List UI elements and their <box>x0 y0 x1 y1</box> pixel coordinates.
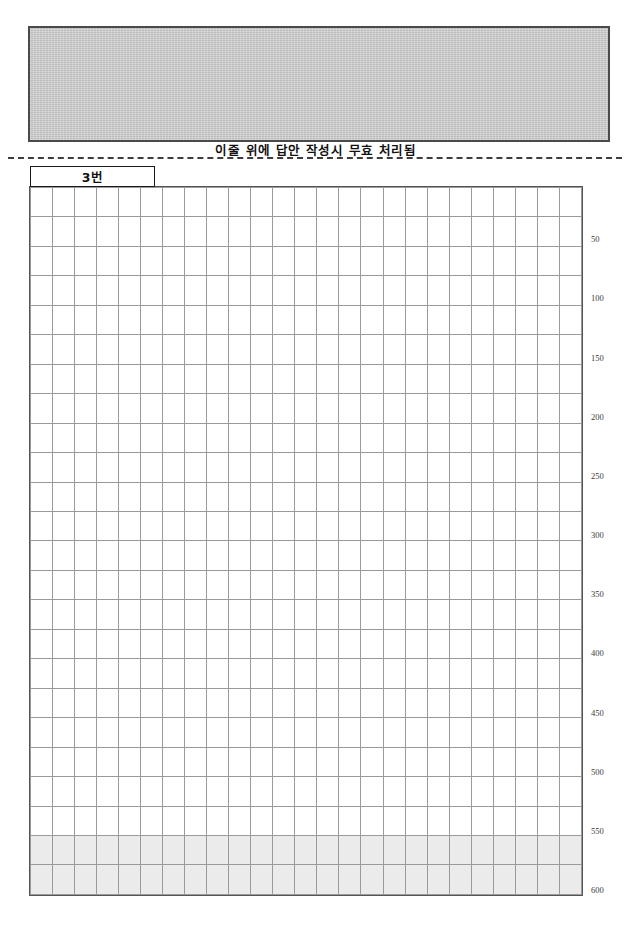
grid-cell[interactable] <box>537 835 559 864</box>
grid-cell[interactable] <box>141 747 163 776</box>
grid-cell[interactable] <box>405 511 427 540</box>
grid-cell[interactable] <box>493 305 515 334</box>
grid-cell[interactable] <box>273 364 295 393</box>
grid-cell[interactable] <box>53 865 75 895</box>
grid-cell[interactable] <box>97 423 119 452</box>
grid-cell[interactable] <box>427 453 449 482</box>
grid-cell[interactable] <box>273 570 295 599</box>
grid-cell[interactable] <box>273 335 295 364</box>
grid-cell[interactable] <box>185 570 207 599</box>
grid-cell[interactable] <box>53 747 75 776</box>
grid-cell[interactable] <box>75 217 97 246</box>
grid-cell[interactable] <box>75 276 97 305</box>
grid-cell[interactable] <box>97 806 119 835</box>
grid-cell[interactable] <box>427 629 449 658</box>
grid-cell[interactable] <box>449 453 471 482</box>
grid-cell[interactable] <box>339 718 361 747</box>
grid-cell[interactable] <box>119 246 141 275</box>
grid-cell[interactable] <box>515 335 537 364</box>
grid-cell[interactable] <box>537 394 559 423</box>
grid-cell[interactable] <box>493 423 515 452</box>
grid-cell[interactable] <box>207 659 229 688</box>
grid-cell[interactable] <box>515 423 537 452</box>
grid-cell[interactable] <box>383 865 405 895</box>
grid-cell[interactable] <box>31 394 53 423</box>
grid-cell[interactable] <box>207 246 229 275</box>
grid-cell[interactable] <box>185 188 207 217</box>
grid-cell[interactable] <box>493 570 515 599</box>
grid-cell[interactable] <box>537 659 559 688</box>
grid-cell[interactable] <box>53 629 75 658</box>
grid-cell[interactable] <box>141 305 163 334</box>
grid-cell[interactable] <box>295 511 317 540</box>
grid-cell[interactable] <box>515 777 537 806</box>
grid-cell[interactable] <box>515 217 537 246</box>
grid-cell[interactable] <box>31 276 53 305</box>
grid-cell[interactable] <box>317 482 339 511</box>
grid-cell[interactable] <box>383 600 405 629</box>
grid-row[interactable] <box>31 777 582 806</box>
grid-cell[interactable] <box>537 600 559 629</box>
grid-cell[interactable] <box>427 246 449 275</box>
grid-cell[interactable] <box>75 659 97 688</box>
grid-cell[interactable] <box>207 305 229 334</box>
grid-cell[interactable] <box>383 629 405 658</box>
grid-cell[interactable] <box>273 688 295 717</box>
grid-cell[interactable] <box>427 188 449 217</box>
grid-cell[interactable] <box>361 688 383 717</box>
grid-cell[interactable] <box>119 718 141 747</box>
grid-cell[interactable] <box>119 600 141 629</box>
grid-row[interactable] <box>31 305 582 334</box>
grid-cell[interactable] <box>75 688 97 717</box>
grid-cell[interactable] <box>273 188 295 217</box>
grid-cell[interactable] <box>141 217 163 246</box>
grid-cell[interactable] <box>119 276 141 305</box>
grid-cell[interactable] <box>493 688 515 717</box>
grid-cell[interactable] <box>31 246 53 275</box>
grid-cell[interactable] <box>295 688 317 717</box>
grid-cell[interactable] <box>229 570 251 599</box>
grid-cell[interactable] <box>207 364 229 393</box>
grid-cell[interactable] <box>317 806 339 835</box>
grid-cell[interactable] <box>317 335 339 364</box>
grid-cell[interactable] <box>97 865 119 895</box>
grid-cell[interactable] <box>339 629 361 658</box>
grid-cell[interactable] <box>119 305 141 334</box>
grid-cell[interactable] <box>251 423 273 452</box>
grid-cell[interactable] <box>97 246 119 275</box>
grid-cell[interactable] <box>405 335 427 364</box>
grid-cell[interactable] <box>53 541 75 570</box>
grid-cell[interactable] <box>559 276 581 305</box>
grid-cell[interactable] <box>251 541 273 570</box>
grid-cell[interactable] <box>185 246 207 275</box>
grid-cell[interactable] <box>97 600 119 629</box>
grid-cell[interactable] <box>361 541 383 570</box>
grid-cell[interactable] <box>207 217 229 246</box>
grid-cell[interactable] <box>229 335 251 364</box>
grid-cell[interactable] <box>427 718 449 747</box>
grid-cell[interactable] <box>405 482 427 511</box>
grid-cell[interactable] <box>427 423 449 452</box>
grid-cell[interactable] <box>53 423 75 452</box>
grid-cell[interactable] <box>471 747 493 776</box>
grid-cell[interactable] <box>119 482 141 511</box>
grid-cell[interactable] <box>141 335 163 364</box>
grid-cell[interactable] <box>339 659 361 688</box>
grid-cell[interactable] <box>559 835 581 864</box>
grid-cell[interactable] <box>31 305 53 334</box>
grid-cell[interactable] <box>97 629 119 658</box>
grid-cell[interactable] <box>141 570 163 599</box>
grid-cell[interactable] <box>75 777 97 806</box>
grid-cell[interactable] <box>515 246 537 275</box>
grid-cell[interactable] <box>515 747 537 776</box>
grid-cell[interactable] <box>537 777 559 806</box>
grid-cell[interactable] <box>471 718 493 747</box>
grid-cell[interactable] <box>559 659 581 688</box>
grid-cell[interactable] <box>559 394 581 423</box>
grid-cell[interactable] <box>295 659 317 688</box>
grid-cell[interactable] <box>273 718 295 747</box>
grid-cell[interactable] <box>515 835 537 864</box>
grid-cell[interactable] <box>31 629 53 658</box>
grid-cell[interactable] <box>471 865 493 895</box>
grid-cell[interactable] <box>427 600 449 629</box>
